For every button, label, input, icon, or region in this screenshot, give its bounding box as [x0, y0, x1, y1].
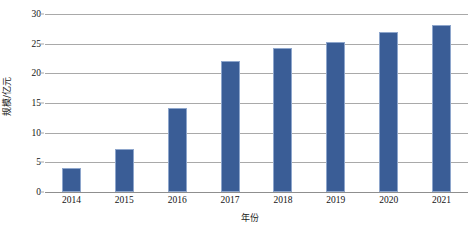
- bar: [326, 42, 345, 192]
- bar: [62, 168, 81, 192]
- y-tick-mark: [39, 103, 44, 104]
- y-tick-mark: [39, 192, 44, 193]
- x-tick-label: 2015: [94, 195, 154, 205]
- x-tick-label: 2014: [41, 195, 101, 205]
- y-axis-ticks: 051015202530: [0, 14, 41, 192]
- y-tick-label: 20: [3, 68, 41, 78]
- x-axis-title-text: 年份: [241, 213, 259, 223]
- axis-baseline: [45, 192, 468, 193]
- x-tick-label: 2020: [359, 195, 419, 205]
- x-tick-label: 2016: [147, 195, 207, 205]
- y-tick-mark: [39, 132, 44, 133]
- y-tick-mark: [39, 162, 44, 163]
- y-tick-label: 30: [3, 9, 41, 19]
- bar: [221, 61, 240, 192]
- bars-layer: [45, 14, 468, 192]
- x-tick-label: 2018: [253, 195, 313, 205]
- y-tick-mark: [39, 14, 44, 15]
- bar: [168, 108, 187, 192]
- y-tick-label: 10: [3, 128, 41, 138]
- x-axis-ticks: 20142015201620172018201920202021: [45, 195, 468, 211]
- plot-area: [45, 14, 468, 192]
- x-tick-label: 2017: [200, 195, 260, 205]
- bar: [379, 32, 398, 192]
- y-tick-mark: [39, 43, 44, 44]
- x-axis-title: 年份: [0, 211, 475, 224]
- bar: [432, 25, 451, 192]
- y-tick-label: 5: [3, 157, 41, 167]
- y-tick-label: 25: [3, 39, 41, 49]
- y-tick-mark: [39, 73, 44, 74]
- bar: [115, 149, 134, 192]
- x-tick-label: 2021: [412, 195, 472, 205]
- y-tick-label: 0: [3, 187, 41, 197]
- y-tick-label: 15: [3, 98, 41, 108]
- bar: [273, 48, 292, 192]
- bar-chart-figure: 规模/亿元 051015202530 201420152016201720182…: [0, 0, 475, 234]
- x-tick-label: 2019: [306, 195, 366, 205]
